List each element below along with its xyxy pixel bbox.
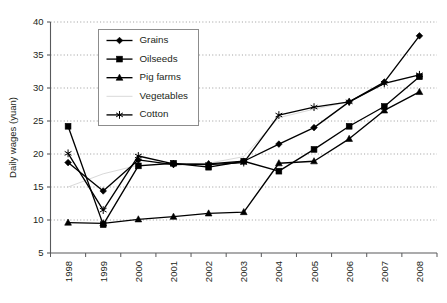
x-tick-label-2004: 2004 [273,261,284,282]
chart-legend: GrainsOilseedsPig farmsVegetablesCotton [99,30,199,126]
y-tick-label-30: 30 [33,82,44,93]
x-tick-label-1998: 1998 [63,261,74,282]
y-axis-title: Daily wages (yuan) [7,97,18,178]
chart-canvas: 510152025303540 199819992000200120022003… [0,0,447,303]
y-tick-label-5: 5 [38,247,43,258]
legend-label: Grains [140,34,169,45]
legend-label: Vegetables [140,90,189,101]
legend-label: Oilseeds [140,53,178,64]
x-tick-label-2003: 2003 [238,261,249,282]
daily-wages-line-chart: 510152025303540 199819992000200120022003… [0,0,447,303]
legend-label: Pig farms [140,71,181,82]
x-tick-label-2000: 2000 [133,261,144,282]
x-tick-label-2002: 2002 [203,261,214,282]
x-tick-label-2007: 2007 [379,261,390,282]
x-tick-label-1999: 1999 [98,261,109,282]
y-tick-label-20: 20 [33,148,44,159]
y-tick-label-25: 25 [33,115,44,126]
data-point-marker [311,146,317,152]
y-tick-label-10: 10 [33,214,44,225]
x-tick-label-2006: 2006 [344,261,355,282]
legend-marker-square [117,56,123,62]
y-tick-label-35: 35 [33,49,44,60]
y-tick-label-15: 15 [33,181,44,192]
x-tick-label-2001: 2001 [168,261,179,282]
data-point-marker [276,168,282,174]
data-point-marker [346,123,352,129]
x-tick-label-2008: 2008 [414,261,425,282]
data-point-marker [276,141,283,148]
y-axis-title-text: Daily wages (yuan) [7,97,18,178]
data-point-marker [135,163,141,169]
y-tick-label-40: 40 [33,16,44,27]
data-point-marker [416,88,423,94]
y-axis-tick-labels: 510152025303540 [33,16,44,258]
x-tick-label-2005: 2005 [309,261,320,282]
data-point-marker [65,123,71,129]
legend-label: Cotton [140,108,169,119]
x-axis-tick-labels: 1998199920002001200220032004200520062007… [63,261,425,282]
